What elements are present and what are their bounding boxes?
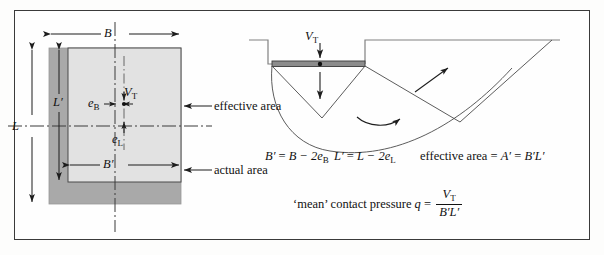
- figure-container: B B′ L L′ eB eL VT VT effective area act…: [0, 0, 604, 255]
- eq1-subscript: B: [323, 155, 329, 165]
- effective-area-label: effective area: [214, 100, 281, 113]
- dimension-label-B: B: [104, 27, 112, 40]
- rotation-arrow: [357, 117, 400, 125]
- load-point-plan: [122, 102, 126, 106]
- eccentricity-label-eB: eB: [88, 97, 100, 112]
- pressure-fraction: VTB′L′: [434, 188, 464, 218]
- shear-fan-radius-1: [365, 66, 460, 122]
- dimension-label-L-prime: L′: [53, 96, 63, 109]
- heave-arrow: [415, 68, 448, 92]
- eccentricity-label-eL: eL: [112, 133, 123, 148]
- fraction-denominator: B′L′: [436, 205, 462, 219]
- dimension-label-L: L: [12, 120, 19, 133]
- log-spiral-failure-surface: [272, 66, 512, 153]
- dimension-label-B-prime: B′: [103, 158, 113, 171]
- equation-effective-area: effective area = A′ = B′L′: [420, 150, 544, 163]
- eB-subscript: B: [94, 102, 100, 112]
- VT-subscript-plan: T: [132, 91, 138, 101]
- equation-l-prime: L′ = L − 2eL: [334, 150, 396, 165]
- active-wedge-right-face: [322, 66, 365, 118]
- fraction-numerator: VT: [436, 188, 462, 205]
- eq2-subscript: L: [390, 155, 396, 165]
- passive-wedge-face: [460, 40, 552, 122]
- equation-b-prime: B′ = B − 2eB: [265, 150, 329, 165]
- load-label-plan: VT: [124, 86, 137, 101]
- load-label-section: VT: [305, 30, 318, 45]
- actual-area-label: actual area: [214, 164, 268, 177]
- ground-surface-right: [365, 40, 560, 64]
- eL-subscript: L: [118, 138, 124, 148]
- fraction-numerator-subscript: T: [450, 193, 456, 203]
- effective-area-rect: [68, 48, 181, 182]
- equation-mean-contact-pressure: ‘mean’ contact pressure q = VTB′L′: [293, 188, 464, 218]
- load-point-section: [318, 62, 322, 66]
- VT-subscript-section: T: [313, 35, 319, 45]
